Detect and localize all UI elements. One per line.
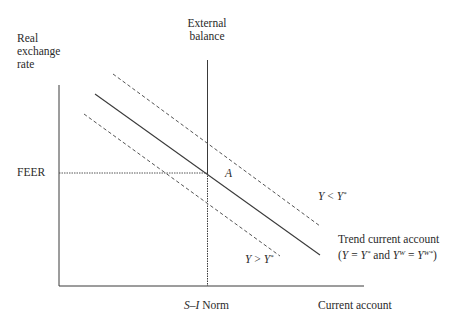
upper-dashed-line (113, 74, 320, 226)
external-balance-label-line2: balance (182, 30, 232, 43)
point-a-label: A (225, 167, 232, 180)
external-balance-label-line1: External (182, 17, 232, 30)
y-axis-label-line1: Real (17, 32, 60, 45)
y-axis-label-line2: exchange (17, 45, 60, 58)
si-norm-label: S–I Norm (184, 299, 229, 312)
x-axis-label: Current account (318, 299, 392, 312)
external-balance-label: External balance (182, 17, 232, 43)
lower-dashed-line (84, 114, 280, 256)
y-axis-label-line3: rate (17, 58, 60, 71)
y-greater-than-ystar-label: Y > Y* (245, 253, 274, 266)
diagram-canvas (0, 0, 457, 324)
y-less-than-ystar-label: Y < Y* (318, 190, 347, 203)
y-axis-label: Real exchange rate (17, 32, 60, 71)
trend-label-line1: Trend current account (338, 231, 439, 247)
trend-current-account-label: Trend current account (Y = Y* and YW = Y… (338, 231, 439, 263)
trend-label-line2: (Y = Y* and YW = YW*) (338, 247, 439, 263)
feer-label: FEER (17, 166, 45, 179)
